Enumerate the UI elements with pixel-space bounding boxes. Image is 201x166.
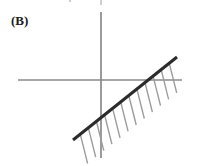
hatch-mark [145, 83, 152, 112]
figure-panel: (B) [0, 0, 201, 166]
hatch-mark [137, 89, 144, 118]
hatch-mark [153, 77, 160, 106]
hatch-mark [121, 102, 128, 131]
hatch-mark [169, 64, 176, 93]
hatch-mark [80, 134, 87, 163]
hatch-mark [88, 128, 95, 157]
hatch-mark [113, 109, 120, 138]
boundary-line [73, 57, 177, 140]
hatch-mark [129, 96, 136, 125]
hatch-mark [105, 115, 112, 144]
hatch-marks-group [80, 64, 176, 164]
coordinate-plane-graphic [0, 0, 201, 166]
hatch-mark [161, 70, 168, 99]
